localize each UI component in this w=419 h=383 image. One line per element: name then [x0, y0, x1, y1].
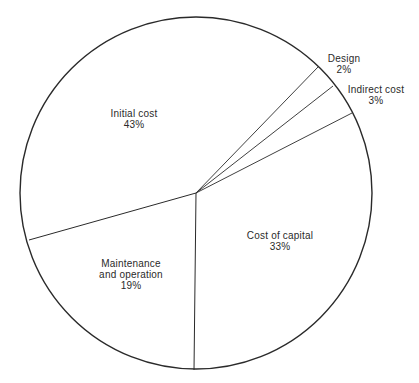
label-percent: 2%	[328, 64, 360, 75]
label-text: Indirect cost	[348, 84, 405, 95]
label-percent: 19%	[99, 280, 163, 291]
label-text: Cost of capital	[247, 230, 313, 241]
label-percent: 3%	[348, 95, 405, 106]
label-text: Design	[328, 53, 360, 64]
label-text: Initial cost	[111, 108, 158, 119]
label-cost-of-capital: Cost of capital 33%	[247, 230, 313, 252]
label-percent: 43%	[111, 119, 158, 130]
label-initial-cost: Initial cost 43%	[111, 108, 158, 130]
label-text: Maintenance	[99, 258, 163, 269]
label-percent: 33%	[247, 241, 313, 252]
label-text: and operation	[99, 269, 163, 280]
label-design: Design 2%	[328, 53, 360, 75]
label-maintenance-operation: Maintenance and operation 19%	[99, 258, 163, 291]
label-indirect-cost: Indirect cost 3%	[348, 84, 405, 106]
